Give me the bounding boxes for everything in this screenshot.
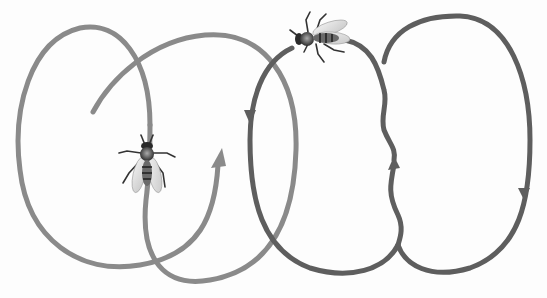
dance-diagram: [0, 0, 547, 298]
arrowhead-icon: [211, 148, 226, 168]
bee-icon: [119, 135, 175, 194]
round-dance-path: [18, 27, 296, 281]
arrowhead-icon: [388, 156, 400, 170]
bee-dance-figure: [0, 0, 547, 298]
arrowhead-icon: [244, 110, 256, 124]
waggle-dance-path: [250, 16, 530, 273]
bee-icon: [290, 12, 350, 62]
